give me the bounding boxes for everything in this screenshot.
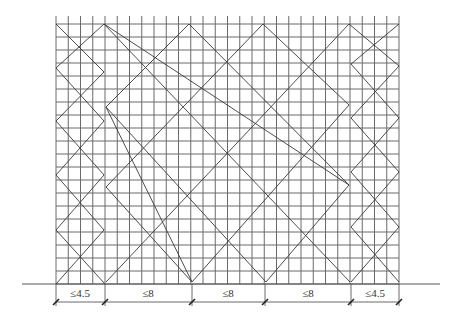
- center-panel-brace: [104, 24, 349, 185]
- dimension-label-right-end: ≤4.5: [365, 287, 385, 299]
- dimension-label-bay-2: ≤8: [222, 287, 234, 299]
- scaffold-elevation-diagram: ≤4.5 ≤8 ≤8 ≤8 ≤4.5: [0, 0, 454, 326]
- dimension-annotations: ≤4.5 ≤8 ≤8 ≤8 ≤4.5: [53, 284, 402, 306]
- dimension-label-left-end: ≤4.5: [70, 287, 90, 299]
- scaffold-posts: [56, 16, 399, 284]
- dimension-label-bay-3: ≤8: [302, 287, 314, 299]
- center-panel-brace: [263, 24, 349, 105]
- dimension-label-bay-1: ≤8: [142, 287, 154, 299]
